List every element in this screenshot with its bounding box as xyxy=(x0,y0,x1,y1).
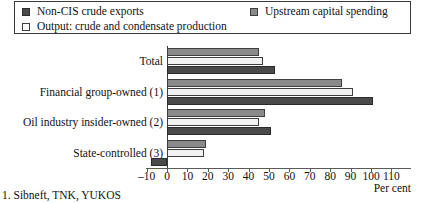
x-axis-tick-labels: –100102030405060708090100110 xyxy=(0,170,421,184)
legend-row-1: Non-CIS crude exports Upstream capital s… xyxy=(15,4,410,19)
x-tick-label: 50 xyxy=(263,170,275,183)
legend-label: Non-CIS crude exports xyxy=(37,5,144,18)
bar xyxy=(151,158,167,166)
category-label: Oil industry insider-owned (2) xyxy=(3,116,163,128)
x-tick-label: 20 xyxy=(202,170,214,183)
category-axis-labels: TotalFinancial group-owned (1)Oil indust… xyxy=(0,46,163,168)
x-tick-label: 40 xyxy=(243,170,255,183)
legend-item-non-cis-crude-exports[interactable]: Non-CIS crude exports xyxy=(22,4,144,19)
category-label: State-controlled (3) xyxy=(3,147,163,159)
legend-label: Output: crude and condensate production xyxy=(37,20,227,33)
x-tick-label: 0 xyxy=(164,170,170,183)
chart-figure: Non-CIS crude exports Upstream capital s… xyxy=(0,0,421,203)
plot-area xyxy=(167,46,411,168)
x-tick-label: –10 xyxy=(138,170,155,183)
legend-row-2: Output: crude and condensate production xyxy=(15,19,410,34)
legend-item-output-crude-and-condensate-production[interactable]: Output: crude and condensate production xyxy=(22,19,227,34)
x-tick-label: 60 xyxy=(284,170,296,183)
bar xyxy=(167,88,353,96)
x-tick-label: 70 xyxy=(304,170,316,183)
dark-square-icon xyxy=(22,8,30,16)
bar xyxy=(167,118,259,126)
category-label: Financial group-owned (1) xyxy=(3,86,163,98)
chart-legend: Non-CIS crude exports Upstream capital s… xyxy=(14,1,411,34)
bar xyxy=(167,48,259,56)
mid-square-icon xyxy=(250,8,258,16)
bar xyxy=(167,149,204,157)
chart-footnote: 1. Sibneft, TNK, YUKOS xyxy=(2,189,121,202)
x-tick-label: 80 xyxy=(324,170,336,183)
x-tick-label: 10 xyxy=(182,170,194,183)
bar xyxy=(167,66,275,74)
bar xyxy=(167,57,263,65)
legend-label: Upstream capital spending xyxy=(265,5,388,18)
x-tick-label: 30 xyxy=(222,170,234,183)
bar xyxy=(167,109,265,117)
legend-item-upstream-capital-spending[interactable]: Upstream capital spending xyxy=(250,4,388,19)
bar xyxy=(167,127,271,135)
category-label: Total xyxy=(3,55,163,67)
bar xyxy=(167,79,342,87)
x-axis-title: Per cent xyxy=(374,182,411,195)
bar xyxy=(167,97,373,105)
bar xyxy=(167,140,206,148)
light-square-icon xyxy=(22,23,30,31)
x-tick-label: 90 xyxy=(345,170,357,183)
